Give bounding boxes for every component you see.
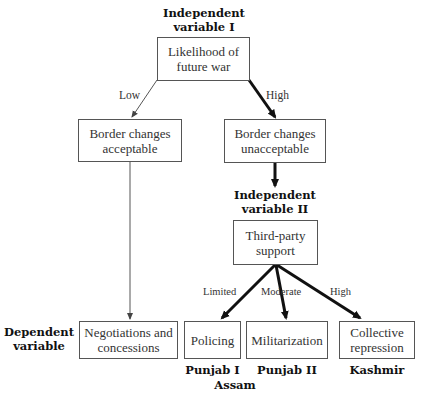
edge-label-high: High	[266, 89, 289, 101]
node-third-party-support: Third-party support	[233, 220, 318, 265]
edge-label-limited: Limited	[203, 286, 236, 297]
edge-label-low: Low	[119, 89, 140, 101]
case-punjab-1: Punjab I	[184, 363, 241, 377]
independent-variable-2-header: Independent variable II	[220, 188, 330, 216]
case-punjab-2: Punjab II	[246, 363, 328, 377]
case-kashmir: Kashmir	[339, 363, 415, 377]
node-collective-repression: Collective repression	[339, 321, 415, 359]
node-policing: Policing	[184, 321, 241, 359]
edge-label-moderate: Moderate	[261, 286, 301, 297]
node-border-changes-acceptable: Border changes acceptable	[78, 119, 182, 162]
edge-label-high-support: High	[330, 286, 351, 297]
independent-variable-1-header: Independent variable I	[150, 6, 258, 34]
node-likelihood-of-future-war: Likelihood of future war	[157, 37, 250, 81]
case-assam: Assam	[200, 378, 270, 392]
node-negotiations-and-concessions: Negotiations and concessions	[79, 321, 178, 359]
node-border-changes-unacceptable: Border changes unacceptable	[224, 119, 326, 163]
node-militarization: Militarization	[246, 321, 328, 359]
dependent-variable-header: Dependent variable	[3, 325, 75, 353]
